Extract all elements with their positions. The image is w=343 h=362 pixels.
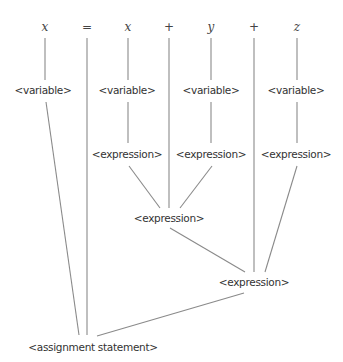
variable-token: y <box>208 20 215 34</box>
tree-edge <box>46 102 79 335</box>
parse-tree-edges <box>0 0 343 362</box>
tree-edge <box>265 166 297 272</box>
tree-node-expression: <expression> <box>219 276 290 288</box>
tree-node-assignment-statement: <assignment statement> <box>28 341 157 353</box>
tree-node-variable: <variable> <box>15 84 72 96</box>
tree-node-expression: <expression> <box>176 148 247 160</box>
tree-node-expression: <expression> <box>261 148 332 160</box>
operator-token: + <box>164 20 174 34</box>
operator-token: + <box>249 20 259 34</box>
tree-node-variable: <variable> <box>268 84 325 96</box>
tree-edge <box>129 166 160 208</box>
tree-node-variable: <variable> <box>99 84 156 96</box>
tree-edge <box>97 293 244 336</box>
tree-edge <box>180 166 212 208</box>
tree-node-expression: <expression> <box>92 148 163 160</box>
variable-token: z <box>294 20 300 34</box>
operator-token: = <box>82 20 92 34</box>
tree-node-variable: <variable> <box>183 84 240 96</box>
variable-token: x <box>125 20 132 34</box>
tree-node-expression: <expression> <box>134 212 205 224</box>
tree-edge <box>170 228 245 272</box>
variable-token: x <box>42 20 49 34</box>
